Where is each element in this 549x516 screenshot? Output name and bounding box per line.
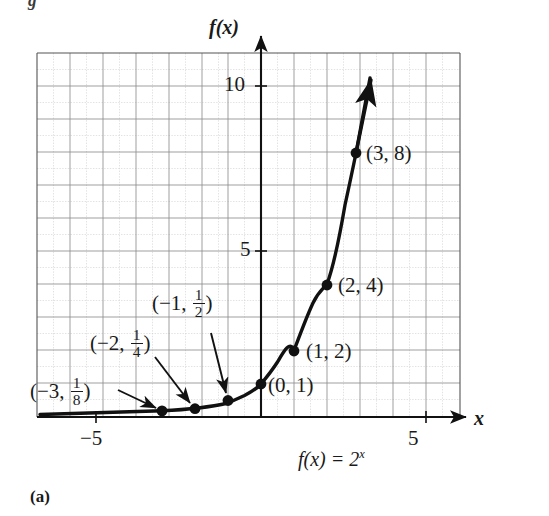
point-label-neg2-quarter: (−2, 14) [90, 327, 151, 360]
pm1-denominator: 2 [193, 303, 205, 320]
data-point-2 [322, 280, 333, 291]
y-axis-label: f(x) [209, 17, 239, 37]
data-point-m2 [190, 403, 201, 414]
axes [37, 36, 466, 417]
pm3-numerator: 1 [71, 375, 83, 391]
function-equation-base: f(x) = 2 [298, 448, 359, 470]
pm2-numerator: 1 [131, 327, 143, 343]
point-label-0-1: (0, 1) [268, 375, 314, 396]
exponential-function-figure: g [0, 0, 549, 516]
minor-gridlines [37, 53, 460, 417]
data-point-m1 [223, 395, 234, 406]
pm3-close: ) [84, 379, 91, 403]
data-point-m3 [157, 406, 168, 417]
figure-caption: (a) [30, 488, 50, 505]
data-point-0 [256, 379, 267, 390]
data-points [157, 148, 362, 417]
point-label-neg1-half: (−1, 12) [152, 287, 213, 320]
leader-m2 [155, 357, 190, 403]
leader-m3 [118, 390, 156, 408]
pm2-open: (−2, [90, 331, 130, 355]
point-label-2-4: (2, 4) [338, 275, 384, 296]
pm3-denominator: 8 [71, 391, 83, 408]
point-label-3-8: (3, 8) [366, 143, 412, 164]
fraction-one-eighth: 18 [71, 375, 83, 408]
pm3-open: (−3, [30, 379, 70, 403]
pm1-numerator: 1 [193, 287, 205, 303]
pm2-close: ) [144, 331, 151, 355]
y-tick-label-5: 5 [240, 239, 251, 260]
x-tick-label-neg5: −5 [80, 428, 102, 449]
x-tick-label-5: 5 [408, 428, 419, 449]
data-point-1 [289, 346, 300, 357]
function-curve [40, 78, 370, 415]
y-tick-label-10: 10 [224, 74, 245, 95]
fraction-one-half: 12 [193, 287, 205, 320]
pm1-close: ) [206, 291, 213, 315]
major-gridlines [37, 53, 460, 417]
cropped-header-text: g [28, 0, 37, 11]
point-label-neg3-eighth: (−3, 18) [30, 375, 91, 408]
plot-frame [37, 53, 460, 417]
pm2-denominator: 4 [131, 343, 143, 360]
point-label-1-2: (1, 2) [306, 341, 352, 362]
x-axis-label: x [474, 408, 484, 428]
fraction-one-quarter: 14 [131, 327, 143, 360]
function-equation-exponent: x [359, 447, 365, 461]
function-equation-label: f(x) = 2x [298, 448, 365, 469]
pm1-open: (−1, [152, 291, 192, 315]
data-point-3 [351, 148, 362, 159]
